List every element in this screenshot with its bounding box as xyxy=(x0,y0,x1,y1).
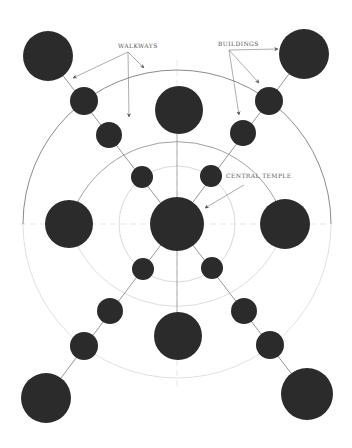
node-sw-inner xyxy=(132,258,154,280)
node-ne-middle xyxy=(230,120,256,146)
building-corner-se xyxy=(281,368,333,420)
building-east xyxy=(260,199,310,249)
central-temple-arrow xyxy=(205,185,244,208)
building-corner-ne xyxy=(279,29,329,79)
node-se-outer xyxy=(256,331,284,359)
node-ne-inner xyxy=(200,165,222,187)
node-nw-inner xyxy=(131,166,153,188)
buildings-arrow-right xyxy=(229,49,278,50)
node-se-middle xyxy=(231,298,257,324)
node-sw-outer xyxy=(70,332,98,360)
city-plan-diagram: WALKWAYS BUILDINGS CENTRAL TEMPLE xyxy=(0,0,352,448)
building-south xyxy=(154,312,202,360)
central-temple xyxy=(150,197,204,251)
building-corner-sw xyxy=(21,373,71,423)
central-temple-label: CENTRAL TEMPLE xyxy=(226,172,292,179)
building-north xyxy=(155,86,203,134)
walkways-arrow-down xyxy=(128,52,129,117)
node-ne-outer xyxy=(255,87,283,115)
node-sw-middle xyxy=(97,298,123,324)
walkways-arrow-left xyxy=(73,52,128,78)
node-se-inner xyxy=(201,257,223,279)
node-nw-middle xyxy=(96,122,122,148)
walkways-arrow-right xyxy=(128,52,144,68)
plan-canvas xyxy=(0,0,352,448)
node-nw-outer xyxy=(70,87,98,115)
building-corner-nw xyxy=(23,31,73,81)
buildings-label: BUILDINGS xyxy=(218,40,259,47)
walkways-label: WALKWAYS xyxy=(118,42,158,49)
building-west xyxy=(45,200,93,248)
